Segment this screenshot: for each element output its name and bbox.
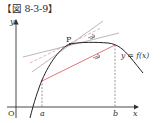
b-label: b xyxy=(113,109,118,118)
origin-label: O xyxy=(8,109,15,118)
mean-value-theorem-diagram: y x O P a b y = f(x) xyxy=(0,0,160,123)
function-label: y = f(x) xyxy=(120,51,149,60)
parallel-mark-top xyxy=(88,34,95,39)
secant-line xyxy=(42,45,115,81)
point-p-label: P xyxy=(66,35,72,44)
parallel-tangent-dashed xyxy=(30,28,101,63)
parallel-mark-secant xyxy=(93,54,100,59)
x-axis-label: x xyxy=(133,109,138,118)
tangent-line-steep xyxy=(32,21,103,72)
a-label: a xyxy=(40,109,45,118)
y-axis-label: y xyxy=(9,17,15,26)
